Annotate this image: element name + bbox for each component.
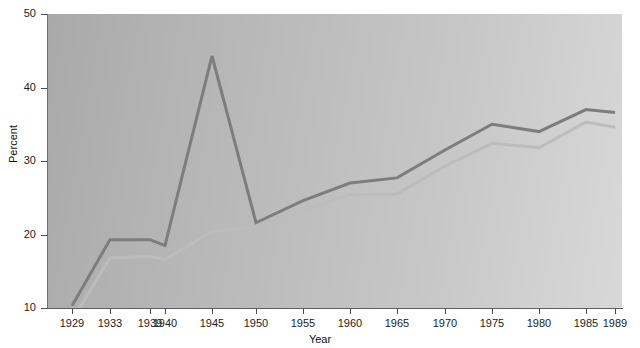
x-tick-label: 1940 [145, 317, 185, 329]
x-tick-mark [303, 309, 304, 314]
x-tick-mark [350, 309, 351, 314]
y-axis-title: Percent [7, 114, 19, 174]
x-tick-label: 1945 [192, 317, 232, 329]
x-axis-title: Year [0, 333, 640, 345]
x-tick-mark [150, 309, 151, 314]
y-tick-mark [41, 235, 47, 236]
x-tick-label: 1980 [519, 317, 559, 329]
line-chart: 5040302010 19291933193919401945195019551… [0, 0, 640, 348]
y-tick-label: 50 [0, 8, 36, 19]
x-tick-mark [165, 309, 166, 314]
x-tick-label: 1950 [236, 317, 276, 329]
x-tick-mark [586, 309, 587, 314]
x-axis-line [47, 308, 623, 309]
y-tick-mark [41, 88, 47, 89]
x-tick-label: 1960 [330, 317, 370, 329]
plot-area [48, 14, 622, 308]
y-tick-label: 20 [0, 229, 36, 240]
y-axis-line [47, 14, 48, 309]
y-tick-mark [41, 308, 47, 309]
x-tick-label: 1965 [377, 317, 417, 329]
x-tick-mark [72, 309, 73, 314]
x-tick-label: 1975 [472, 317, 512, 329]
x-tick-mark [492, 309, 493, 314]
y-tick-label: 10 [0, 302, 36, 313]
x-tick-label: 1970 [425, 317, 465, 329]
y-tick-label: 40 [0, 82, 36, 93]
x-tick-mark [212, 309, 213, 314]
x-tick-label: 1933 [90, 317, 130, 329]
y-tick-mark [41, 14, 47, 15]
x-tick-mark [539, 309, 540, 314]
plot-svg [48, 14, 622, 308]
x-tick-label: 1929 [52, 317, 92, 329]
x-tick-mark [615, 309, 616, 314]
x-tick-mark [445, 309, 446, 314]
x-tick-label: 1955 [283, 317, 323, 329]
y-tick-mark [41, 161, 47, 162]
x-tick-label: 1989 [595, 317, 635, 329]
x-tick-mark [256, 309, 257, 314]
data-line-lower [72, 122, 615, 308]
x-tick-mark [397, 309, 398, 314]
x-tick-mark [110, 309, 111, 314]
data-line-upper [72, 56, 615, 306]
